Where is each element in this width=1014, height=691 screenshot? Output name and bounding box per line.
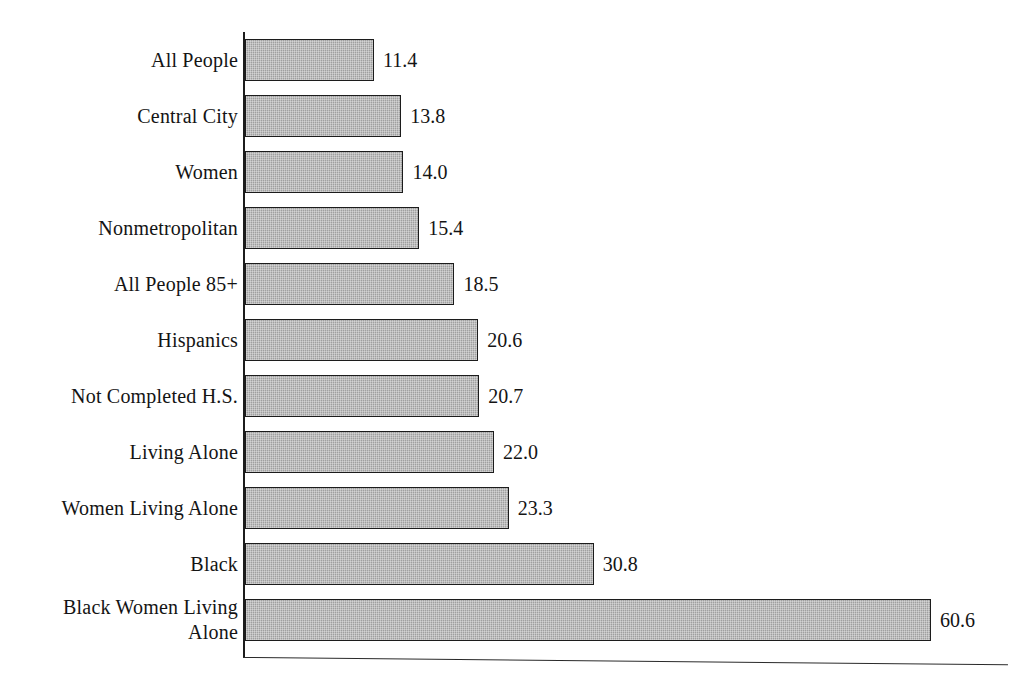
bar-value-label: 20.7 — [488, 386, 523, 406]
category-label: Not Completed H.S. — [8, 368, 238, 424]
bar — [245, 487, 509, 529]
bar-with-value: 18.5 — [245, 263, 498, 305]
bar-rows: All People11.4Central City13.8Women14.0N… — [0, 32, 1014, 648]
bar-row: Hispanics20.6 — [0, 312, 1014, 368]
category-label: Black Women Living Alone — [8, 592, 238, 648]
bar-value-label: 18.5 — [463, 274, 498, 294]
category-label: Women — [8, 144, 238, 200]
bar-value-label: 11.4 — [383, 50, 417, 70]
bar — [245, 95, 401, 137]
bar-chart: All People11.4Central City13.8Women14.0N… — [0, 0, 1014, 691]
bar-with-value: 30.8 — [245, 543, 638, 585]
bar-value-label: 14.0 — [412, 162, 447, 182]
category-label: Black — [8, 536, 238, 592]
bar-value-label: 22.0 — [503, 442, 538, 462]
bar-with-value: 22.0 — [245, 431, 538, 473]
bar-row: All People11.4 — [0, 32, 1014, 88]
bar-row: Living Alone22.0 — [0, 424, 1014, 480]
bar-value-label: 15.4 — [428, 218, 463, 238]
plot-area: All People11.4Central City13.8Women14.0N… — [0, 0, 1014, 691]
category-label: Central City — [8, 88, 238, 144]
bar-row: Black Women Living Alone60.6 — [0, 592, 1014, 648]
bar-row: Not Completed H.S.20.7 — [0, 368, 1014, 424]
bar-row: Women Living Alone23.3 — [0, 480, 1014, 536]
bar-row: Black30.8 — [0, 536, 1014, 592]
bar-row: Central City13.8 — [0, 88, 1014, 144]
bar-with-value: 20.7 — [245, 375, 523, 417]
bar-with-value: 11.4 — [245, 39, 417, 81]
bar-with-value: 14.0 — [245, 151, 447, 193]
bar — [245, 543, 594, 585]
bar-value-label: 13.8 — [410, 106, 445, 126]
bar — [245, 375, 479, 417]
category-label: Women Living Alone — [8, 480, 238, 536]
bar-row: Nonmetropolitan15.4 — [0, 200, 1014, 256]
category-label: All People — [8, 32, 238, 88]
bar — [245, 207, 419, 249]
category-label: Hispanics — [8, 312, 238, 368]
bar — [245, 151, 403, 193]
bar — [245, 39, 374, 81]
bar — [245, 599, 931, 641]
bar — [245, 319, 478, 361]
value-axis-baseline — [243, 657, 1008, 665]
bar-row: Women14.0 — [0, 144, 1014, 200]
bar-with-value: 23.3 — [245, 487, 553, 529]
bar-value-label: 20.6 — [487, 330, 522, 350]
bar — [245, 431, 494, 473]
bar-value-label: 23.3 — [518, 498, 553, 518]
bar-with-value: 20.6 — [245, 319, 522, 361]
category-label: All People 85+ — [8, 256, 238, 312]
bar-value-label: 60.6 — [940, 610, 975, 630]
bar-with-value: 13.8 — [245, 95, 445, 137]
bar-value-label: 30.8 — [603, 554, 638, 574]
bar-row: All People 85+18.5 — [0, 256, 1014, 312]
bar-with-value: 60.6 — [245, 599, 975, 641]
category-label: Nonmetropolitan — [8, 200, 238, 256]
bar-with-value: 15.4 — [245, 207, 463, 249]
category-label: Living Alone — [8, 424, 238, 480]
bar — [245, 263, 454, 305]
